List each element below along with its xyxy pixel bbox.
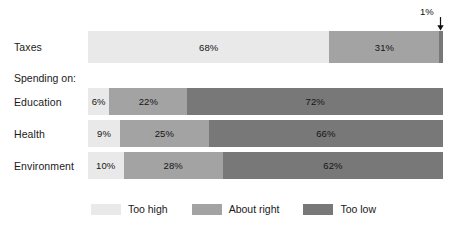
bar-row-health: Health 9% 25% 66% xyxy=(0,120,467,147)
annotation-one-percent: 1% xyxy=(0,0,467,34)
bar-segment-environment-about-right: 28% xyxy=(124,152,223,179)
bar-segment-taxes-too-low xyxy=(439,31,443,63)
bar-segment-health-too-high: 9% xyxy=(88,120,120,147)
bar-row-environment: Environment 10% 28% 62% xyxy=(0,152,467,179)
row-label-taxes: Taxes xyxy=(14,41,42,53)
bar-segment-taxes-about-right: 31% xyxy=(329,31,439,63)
bar-segment-label: 6% xyxy=(92,96,106,107)
bar-segment-label: 28% xyxy=(164,160,183,171)
row-label-environment: Environment xyxy=(14,160,74,172)
bar-environment: 10% 28% 62% xyxy=(88,152,443,179)
bar-segment-label: 62% xyxy=(323,160,342,171)
bar-segment-label: 9% xyxy=(97,128,111,139)
bar-segment-education-too-low: 72% xyxy=(187,88,443,115)
bar-segment-label: 72% xyxy=(306,96,325,107)
bar-taxes: 68% 31% xyxy=(88,31,443,63)
bar-segment-environment-too-high: 10% xyxy=(88,152,124,179)
bar-segment-health-about-right: 25% xyxy=(120,120,209,147)
bar-segment-label: 66% xyxy=(316,128,335,139)
bar-segment-label: 31% xyxy=(375,42,394,53)
row-label-education: Education xyxy=(14,96,62,108)
bar-row-education: Education 6% 22% 72% xyxy=(0,88,467,115)
legend-label: Too low xyxy=(340,203,376,215)
annotation-one-percent-label: 1% xyxy=(420,6,434,17)
legend-label: Too high xyxy=(128,203,168,215)
bar-segment-environment-too-low: 62% xyxy=(223,152,443,179)
legend-label: About right xyxy=(229,203,280,215)
bar-segment-label: 10% xyxy=(96,160,115,171)
legend-item-too-low: Too low xyxy=(303,203,376,215)
bar-row-taxes: Taxes 68% 31% xyxy=(0,31,467,63)
bar-segment-taxes-too-high: 68% xyxy=(88,31,329,63)
bar-segment-health-too-low: 66% xyxy=(209,120,443,147)
stacked-bar-chart: 1% Taxes 68% 31% Spending on: Education … xyxy=(0,0,467,227)
legend-item-too-high: Too high xyxy=(91,203,168,215)
bar-segment-education-too-high: 6% xyxy=(88,88,109,115)
bar-segment-label: 22% xyxy=(139,96,158,107)
bar-segment-label: 68% xyxy=(199,42,218,53)
group-header-spending-on: Spending on: xyxy=(14,72,76,84)
bar-education: 6% 22% 72% xyxy=(88,88,443,115)
row-label-health: Health xyxy=(14,128,45,140)
bar-segment-label: 25% xyxy=(155,128,174,139)
legend-item-about-right: About right xyxy=(192,203,280,215)
legend-swatch-icon xyxy=(91,204,121,215)
bar-health: 9% 25% 66% xyxy=(88,120,443,147)
bar-segment-education-about-right: 22% xyxy=(109,88,187,115)
legend-swatch-icon xyxy=(303,204,333,215)
legend-swatch-icon xyxy=(192,204,222,215)
down-arrow-icon xyxy=(436,17,445,31)
chart-legend: Too high About right Too low xyxy=(0,201,467,217)
